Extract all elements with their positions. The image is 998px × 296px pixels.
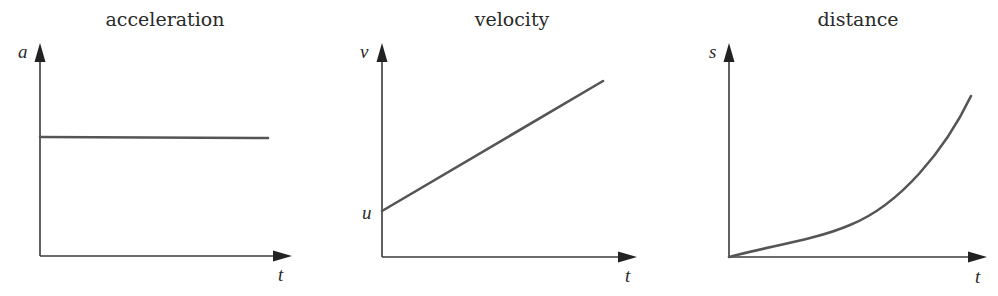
x-axis-arrow-icon	[273, 251, 292, 262]
initial-velocity-label: u	[362, 202, 372, 223]
distance-title: distance	[817, 8, 898, 30]
velocity-line	[382, 81, 603, 211]
velocity-panel: velocity v t u	[360, 8, 637, 286]
x-axis-arrow-icon	[968, 252, 987, 263]
distance-panel: distance s t	[709, 8, 987, 287]
kinematics-graphs: acceleration a t velocity v t u distance…	[0, 0, 998, 296]
distance-y-label: s	[709, 41, 716, 62]
acceleration-title: acceleration	[106, 8, 225, 30]
acceleration-line	[40, 137, 268, 138]
y-axis-arrow-icon	[724, 43, 735, 62]
velocity-title: velocity	[474, 8, 550, 30]
x-axis-arrow-icon	[618, 252, 637, 263]
acceleration-y-label: a	[18, 41, 28, 62]
y-axis-arrow-icon	[35, 43, 46, 62]
acceleration-x-label: t	[278, 264, 284, 285]
acceleration-panel: acceleration a t	[18, 8, 292, 285]
distance-curve	[729, 96, 971, 257]
distance-x-label: t	[975, 266, 981, 287]
y-axis-arrow-icon	[377, 43, 388, 62]
velocity-y-label: v	[360, 41, 369, 62]
velocity-x-label: t	[625, 265, 631, 286]
